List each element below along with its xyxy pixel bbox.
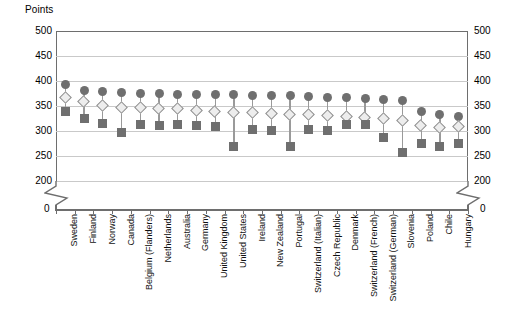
- circle-marker[interactable]: [155, 89, 164, 98]
- category-label: United Kingdom: [219, 214, 229, 278]
- y-tick-label: 500: [22, 26, 52, 36]
- y-tick-label: 250: [22, 151, 52, 161]
- y-axis-title: Points: [25, 4, 53, 15]
- square-marker[interactable]: [229, 142, 238, 151]
- category-label: Germany: [200, 214, 210, 251]
- gridline: [56, 56, 468, 57]
- circle-marker[interactable]: [267, 91, 276, 100]
- connector-line: [233, 95, 234, 147]
- axis-stub-left: [55, 205, 57, 211]
- y-tick-label: 350: [22, 101, 52, 111]
- category-label: United States: [238, 214, 248, 268]
- circle-marker[interactable]: [286, 91, 295, 100]
- square-marker[interactable]: [304, 125, 313, 134]
- category-label: Portugal: [294, 214, 304, 248]
- circle-marker[interactable]: [342, 93, 351, 102]
- square-marker[interactable]: [398, 148, 407, 157]
- circle-marker[interactable]: [323, 93, 332, 102]
- square-marker[interactable]: [435, 142, 444, 151]
- square-marker[interactable]: [286, 142, 295, 151]
- gridline: [56, 181, 468, 182]
- zero-label-left: 0: [44, 203, 50, 214]
- category-label: Hungary: [463, 214, 473, 248]
- square-marker[interactable]: [117, 128, 126, 137]
- category-label: Poland: [425, 214, 435, 242]
- zero-label-right: 0: [480, 203, 486, 214]
- square-marker[interactable]: [136, 120, 145, 129]
- axis-stub-right: [467, 205, 469, 211]
- circle-marker[interactable]: [80, 86, 89, 95]
- circle-marker[interactable]: [211, 90, 220, 99]
- circle-marker[interactable]: [192, 90, 201, 99]
- circle-marker[interactable]: [454, 112, 463, 121]
- circle-marker[interactable]: [435, 110, 444, 119]
- square-marker[interactable]: [173, 120, 182, 129]
- circle-marker[interactable]: [173, 90, 182, 99]
- chart-container: Points 500450400350300250200 50045040035…: [0, 0, 526, 323]
- connector-line: [289, 96, 290, 147]
- y-tick-label: 250: [474, 151, 504, 161]
- square-marker[interactable]: [80, 114, 89, 123]
- category-label: Finland: [88, 214, 98, 244]
- y-tick-label: 400: [474, 76, 504, 86]
- square-marker[interactable]: [342, 120, 351, 129]
- category-label: Sweden: [69, 214, 79, 247]
- category-label: Australia: [182, 214, 192, 249]
- square-marker[interactable]: [61, 107, 70, 116]
- category-label: Netherlands: [163, 214, 173, 263]
- circle-marker[interactable]: [304, 92, 313, 101]
- category-label: Denmark: [350, 214, 360, 251]
- y-tick-label: 350: [474, 101, 504, 111]
- square-marker[interactable]: [417, 139, 426, 148]
- y-tick-label: 500: [474, 26, 504, 36]
- category-label: Norway: [107, 214, 117, 245]
- category-label: Ireland: [257, 214, 267, 242]
- circle-marker[interactable]: [417, 107, 426, 116]
- circle-marker[interactable]: [248, 91, 257, 100]
- category-label: Belgium (Flanders): [144, 214, 154, 290]
- axis-break-right-icon: [456, 181, 482, 211]
- category-label: Czech Republic: [332, 214, 342, 277]
- y-tick-label: 400: [22, 76, 52, 86]
- square-marker[interactable]: [211, 122, 220, 131]
- circle-marker[interactable]: [398, 96, 407, 105]
- category-label: Chile: [444, 214, 454, 235]
- square-marker[interactable]: [98, 119, 107, 128]
- circle-marker[interactable]: [379, 95, 388, 104]
- y-tick-label: 450: [474, 51, 504, 61]
- category-label: Slovenia: [406, 214, 416, 249]
- category-label: New Zealand: [275, 214, 285, 267]
- square-marker[interactable]: [379, 133, 388, 142]
- square-marker[interactable]: [454, 139, 463, 148]
- y-tick-label: 300: [474, 126, 504, 136]
- square-marker[interactable]: [192, 121, 201, 130]
- square-marker[interactable]: [267, 126, 276, 135]
- circle-marker[interactable]: [117, 88, 126, 97]
- category-label: Switzerland (German): [388, 214, 398, 302]
- category-label: Switzerland (Italian): [313, 214, 323, 293]
- circle-marker[interactable]: [361, 94, 370, 103]
- y-tick-label: 450: [22, 51, 52, 61]
- gridline: [56, 81, 468, 82]
- square-marker[interactable]: [323, 126, 332, 135]
- category-label: Switzerland (French): [369, 214, 379, 297]
- square-marker[interactable]: [248, 125, 257, 134]
- y-tick-label: 300: [22, 126, 52, 136]
- square-marker[interactable]: [155, 121, 164, 130]
- circle-marker[interactable]: [136, 89, 145, 98]
- circle-marker[interactable]: [61, 80, 70, 89]
- square-marker[interactable]: [361, 120, 370, 129]
- category-label: Canada: [126, 214, 136, 246]
